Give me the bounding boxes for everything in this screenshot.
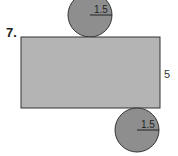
bottom-radius-label: 1.5: [141, 119, 155, 130]
problem-number: 7.: [6, 25, 17, 40]
top-radius-label: 1.5: [94, 4, 108, 15]
cylinder-net-diagram: 1.5 1.5 7. 5: [0, 0, 178, 156]
top-circle: 1.5: [68, 0, 112, 37]
height-label: 5: [164, 68, 170, 80]
bottom-circle: 1.5: [115, 108, 159, 152]
lateral-rectangle: [21, 37, 160, 108]
